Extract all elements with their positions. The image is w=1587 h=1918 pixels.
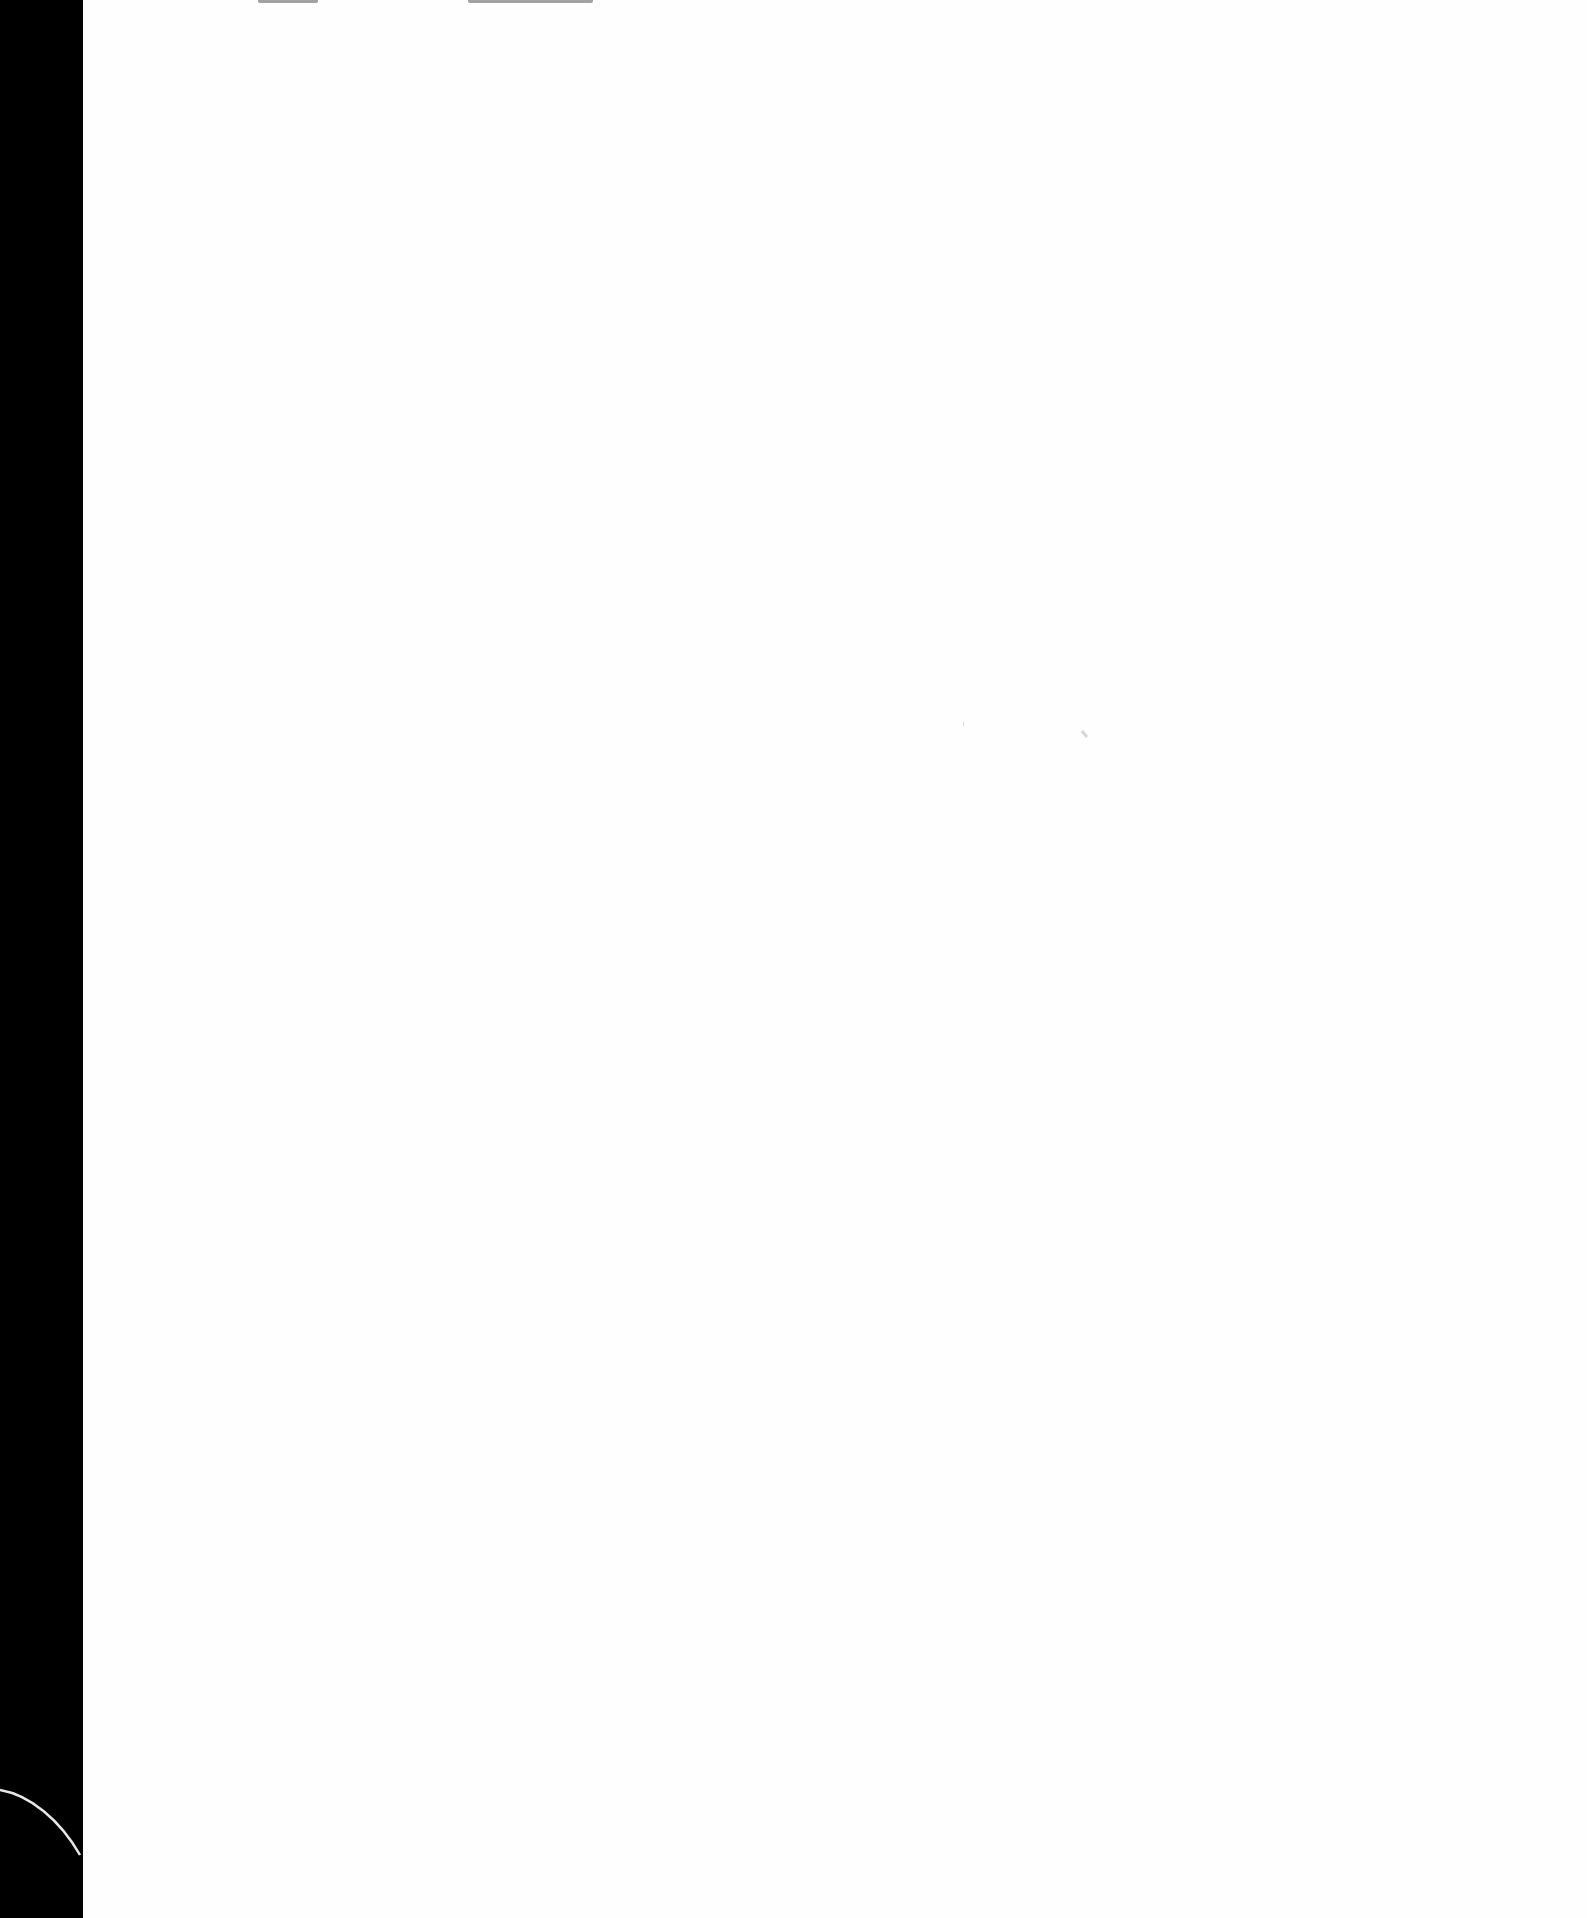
scan-artifact [468, 0, 593, 3]
page-edge-curve [0, 1750, 83, 1918]
scanned-document [0, 0, 1587, 1918]
scan-speck [1081, 730, 1088, 738]
scan-artifact [258, 0, 318, 3]
scan-speck [963, 722, 964, 726]
blank-page [83, 0, 1587, 1918]
scan-border-left [0, 0, 83, 1918]
